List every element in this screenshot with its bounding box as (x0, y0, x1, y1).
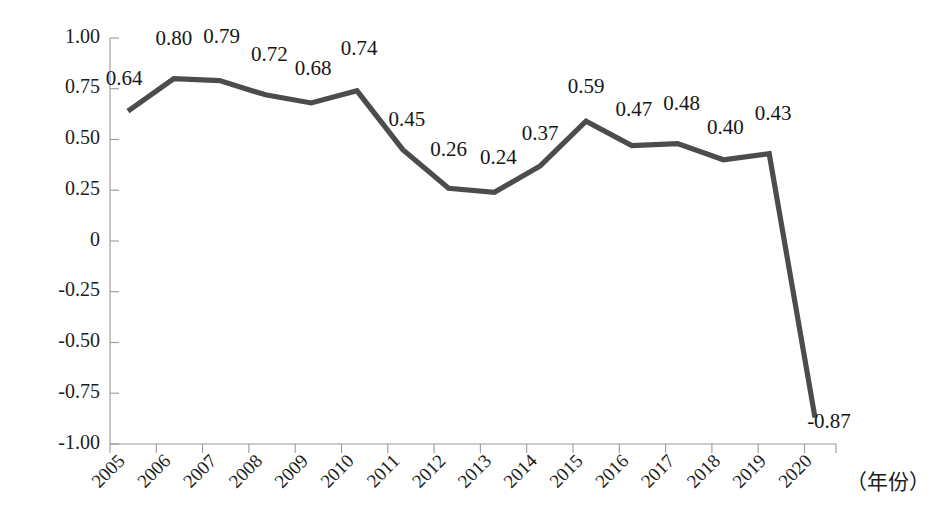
y-tick-label: -1.00 (58, 431, 100, 453)
y-tick-label: 0.50 (65, 126, 100, 148)
y-tick-label: -0.75 (58, 380, 100, 402)
y-tick-label: -0.50 (58, 329, 100, 351)
data-point-label: 0.72 (251, 42, 288, 66)
data-point-label: 0.68 (295, 56, 332, 80)
data-point-label: 0.59 (568, 74, 605, 98)
y-tick-label: 0.25 (65, 177, 100, 199)
y-tick-label: 0.75 (65, 75, 100, 97)
data-point-label: 0.45 (388, 107, 425, 131)
data-point-label: 0.43 (755, 101, 792, 125)
data-point-label: 0.79 (203, 24, 240, 48)
data-point-label: 0.48 (663, 91, 700, 115)
data-point-label: 0.40 (707, 115, 744, 139)
y-tick-label: -0.25 (58, 278, 100, 300)
y-tick-label: 0 (90, 228, 100, 250)
data-point-label: 0.37 (522, 121, 559, 145)
data-point-label: 0.64 (106, 66, 143, 90)
data-point-label: 0.26 (430, 137, 467, 161)
line-chart: 1.00 0.75 0.50 0.25 0 -0.25 -0.50 -0.75 … (0, 0, 945, 527)
data-point-label: 0.80 (155, 26, 192, 50)
x-axis-title: （年份） (846, 470, 930, 494)
chart-canvas: 1.00 0.75 0.50 0.25 0 -0.25 -0.50 -0.75 … (0, 0, 945, 527)
data-point-label: 0.47 (615, 97, 652, 121)
data-point-label: -0.87 (807, 409, 851, 433)
y-tick-label: 1.00 (65, 25, 100, 47)
data-point-label: 0.24 (480, 145, 517, 169)
data-point-label: 0.74 (341, 36, 378, 60)
